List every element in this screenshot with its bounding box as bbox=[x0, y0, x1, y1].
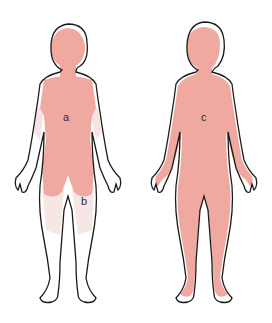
right-body-svg bbox=[136, 0, 272, 323]
region-c-shape bbox=[155, 27, 252, 297]
region-b-label: b bbox=[81, 196, 87, 207]
left-body-svg bbox=[0, 0, 136, 323]
region-a-label: a bbox=[63, 112, 69, 123]
right-body-figure: c bbox=[136, 0, 272, 323]
left-body-figure: a b bbox=[0, 0, 136, 323]
region-c-label: c bbox=[201, 112, 207, 123]
